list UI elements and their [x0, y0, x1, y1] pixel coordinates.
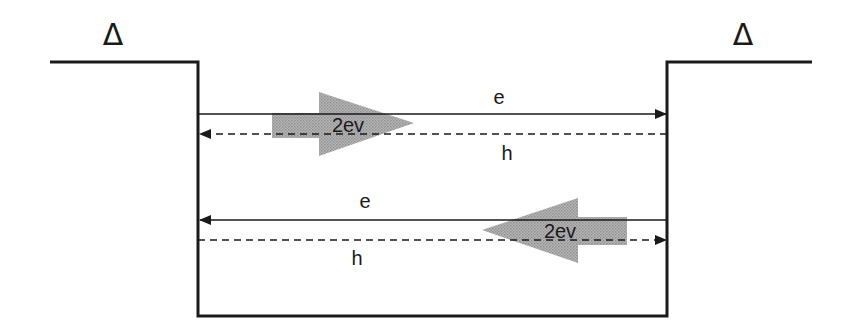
hole-label-top: h [501, 142, 512, 164]
gap-label-right: Δ [733, 17, 754, 52]
electron-label-top: e [493, 86, 504, 108]
hole-label-bottom: h [351, 247, 362, 269]
electron-label-bottom: e [359, 190, 370, 212]
superconductor-well-outline [50, 62, 812, 316]
energy-label-top: 2ev [332, 114, 364, 136]
andreev-reflection-diagram: Δ Δ 2ev e h 2ev e h [0, 0, 858, 333]
gap-label-left: Δ [103, 17, 124, 52]
energy-label-bottom: 2ev [544, 220, 576, 242]
